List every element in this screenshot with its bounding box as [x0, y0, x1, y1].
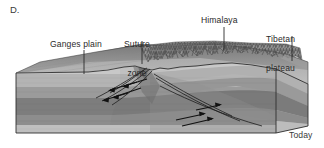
label-suture-zone-line1: Suture: [124, 40, 150, 50]
label-today: Today: [289, 131, 312, 141]
label-suture-zone-line2: zone: [124, 69, 150, 79]
label-tibetan-plateau-line1: Tibetan: [266, 35, 295, 45]
panel-letter: D.: [10, 4, 20, 15]
label-himalaya: Himalaya: [201, 16, 238, 26]
label-tibetan-plateau: Tibetan plateau: [266, 16, 295, 93]
label-tibetan-plateau-line2: plateau: [266, 64, 295, 74]
label-ganges-plain: Ganges plain: [50, 40, 102, 50]
figure-panel-d: D. Ganges plain Suture zone Himalaya Tib…: [0, 0, 324, 148]
label-suture-zone: Suture zone: [124, 21, 150, 98]
